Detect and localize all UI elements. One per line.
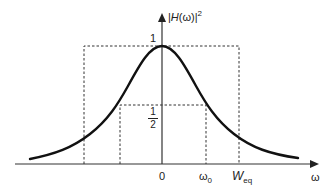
y-axis-label: |H(ω)|2 bbox=[168, 10, 202, 23]
tick-weq: Weq bbox=[232, 170, 252, 185]
x-axis-label: ω bbox=[311, 172, 320, 183]
bandwidth-diagram bbox=[0, 0, 328, 192]
tick-zero: 0 bbox=[159, 171, 165, 182]
x-axis-arrow-icon bbox=[310, 160, 319, 168]
half-label: 1 2 bbox=[148, 107, 158, 130]
peak-label: 1 bbox=[150, 33, 156, 44]
half-power-box bbox=[120, 105, 206, 164]
response-curve bbox=[30, 46, 298, 159]
y-axis-arrow-icon bbox=[158, 13, 166, 22]
tick-omega0: ω0 bbox=[199, 171, 212, 185]
